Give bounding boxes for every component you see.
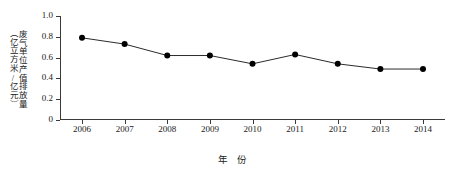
x-axis-tick-label: 2012	[329, 124, 347, 135]
y-axis-tick-label: 0.4	[42, 72, 53, 83]
x-axis-tick-label: 2008	[158, 124, 176, 135]
x-axis-tick-label: 2010	[244, 124, 262, 135]
x-axis-title: 年 份	[0, 152, 468, 166]
data-point-marker	[292, 51, 298, 57]
y-axis-tick-label: 0	[49, 114, 54, 125]
y-axis-title-line-2: （亿立方米/亿元）	[8, 29, 17, 108]
data-point-marker	[335, 61, 341, 67]
data-point-marker	[164, 53, 170, 59]
data-point-marker	[250, 61, 256, 67]
data-point-marker	[122, 41, 128, 47]
data-series-line	[60, 16, 445, 120]
y-axis-tick-label: 0.8	[42, 31, 53, 42]
x-axis-tick-label: 2006	[73, 124, 91, 135]
x-axis-tick-label: 2011	[286, 124, 304, 135]
data-point-marker	[420, 66, 426, 72]
chart-container: （亿立方米/亿元） 废气单位产值排放量 1.00.80.60.40.20 200…	[0, 0, 468, 180]
x-axis-tick-label: 2007	[116, 124, 134, 135]
x-axis-tick-label: 2009	[201, 124, 219, 135]
y-axis-tick-label: 1.0	[42, 10, 53, 21]
plot-area: 1.00.80.60.40.20 20062007200820092010201…	[60, 16, 445, 120]
data-point-marker	[207, 53, 213, 59]
y-axis-title-line-1: 废气单位产值排放量	[17, 30, 26, 108]
x-axis-tick-label: 2014	[414, 124, 432, 135]
data-point-marker	[377, 66, 383, 72]
x-axis-tick-label: 2013	[371, 124, 389, 135]
y-axis-tick-label: 0.2	[42, 93, 53, 104]
y-axis-tick-label: 0.6	[42, 52, 53, 63]
y-axis-title: （亿立方米/亿元） 废气单位产值排放量	[2, 14, 32, 124]
y-axis-tick: 0	[56, 120, 60, 121]
data-point-marker	[79, 35, 85, 41]
